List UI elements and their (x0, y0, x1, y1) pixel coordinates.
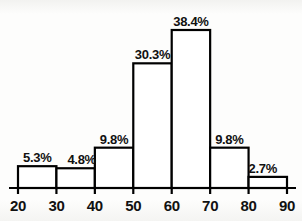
x-axis-tick-label: 70 (202, 197, 218, 214)
histogram-bar (249, 177, 287, 188)
x-axis-tick-label: 80 (241, 197, 257, 214)
bar-value-label: 30.3% (135, 47, 170, 62)
x-axis-tick-label: 50 (125, 197, 141, 214)
bar-value-label: 38.4% (173, 14, 208, 29)
histogram-bar (133, 63, 171, 188)
x-axis-tick-label: 60 (164, 197, 180, 214)
histogram-bar (56, 168, 94, 188)
bar-value-label: 4.8% (67, 152, 95, 167)
histogram-bar (95, 148, 133, 188)
x-axis (9, 188, 296, 194)
histogram-plot-area (0, 0, 302, 221)
x-axis-tick-label: 40 (87, 197, 103, 214)
bar-value-label: 9.8% (215, 132, 243, 147)
bar-value-label: 2.7% (249, 161, 277, 176)
histogram-figure: 5.3%4.8%9.8%30.3%38.4%9.8%2.7% 203040506… (0, 0, 302, 221)
x-axis-tick-label: 90 (279, 197, 295, 214)
histogram-bar (172, 30, 210, 188)
histogram-bar (18, 166, 56, 188)
bar-value-label: 9.8% (100, 132, 128, 147)
x-axis-tick-label: 30 (48, 197, 64, 214)
x-axis-tick-label: 20 (10, 197, 26, 214)
histogram-bar (210, 148, 248, 188)
bar-value-label: 5.3% (23, 150, 51, 165)
